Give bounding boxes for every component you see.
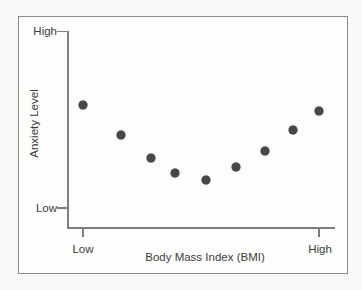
y-tick-low-label: Low — [21, 202, 57, 214]
x-tick-high-mark — [318, 228, 320, 237]
y-tick-high-label: High — [21, 25, 57, 37]
y-tick-low-mark — [57, 207, 67, 209]
scatter-plot-figure: Anxiety Level High Low Low High Body Mas… — [0, 0, 362, 290]
y-tick-high-mark — [57, 31, 67, 33]
x-axis-line — [67, 227, 335, 229]
y-axis-line — [67, 31, 69, 228]
x-axis-title: Body Mass Index (BMI) — [75, 251, 335, 263]
y-axis-title: Anxiety Level — [28, 87, 41, 159]
x-tick-low-mark — [82, 228, 84, 237]
